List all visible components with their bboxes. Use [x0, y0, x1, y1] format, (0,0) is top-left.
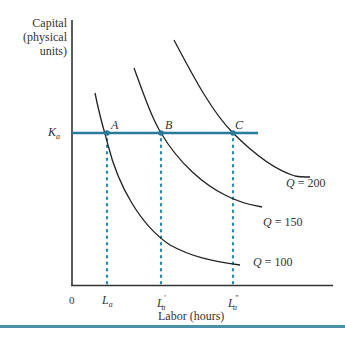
point-b-marker — [158, 130, 164, 136]
la-double-prime-sub: a — [233, 303, 237, 312]
q150-q: Q — [263, 215, 272, 229]
point-b-label: B — [165, 118, 172, 132]
isoquant-q150 — [134, 68, 262, 207]
q200-label: Q = 200 — [286, 176, 325, 190]
point-c-label: C — [235, 118, 243, 132]
point-a-marker — [104, 130, 110, 136]
la-prime-mark: ′ — [164, 294, 166, 303]
q150-label: Q = 150 — [263, 215, 302, 229]
ka-tick-label: Ka — [48, 125, 60, 144]
la-double-prime-tick-label: L″a — [228, 293, 237, 315]
point-a-label: A — [111, 118, 118, 132]
q150-value: = 150 — [275, 215, 303, 229]
la-base: L — [102, 293, 109, 307]
q200-q: Q — [286, 176, 295, 190]
origin-label: 0 — [69, 293, 75, 307]
la-double-prime-mark: ″ — [235, 294, 238, 303]
q100-label: Q = 100 — [253, 255, 292, 269]
y-axis-label-line1: Capital — [23, 16, 67, 30]
ka-sub: a — [56, 132, 60, 141]
q200-value: = 200 — [298, 176, 326, 190]
y-axis-label-line2: (physical — [23, 30, 67, 44]
y-axis-label: Capital (physical units) — [23, 16, 67, 58]
la-tick-label: La — [102, 293, 113, 312]
isoquant-q200 — [174, 40, 310, 177]
x-axis-label: Labor (hours) — [158, 309, 224, 323]
ka-base: K — [48, 125, 56, 139]
y-axis-label-line3: units) — [23, 44, 67, 58]
q100-q: Q — [253, 255, 262, 269]
la-sub: a — [109, 300, 113, 309]
bottom-divider — [0, 325, 345, 328]
q100-value: = 100 — [265, 255, 293, 269]
